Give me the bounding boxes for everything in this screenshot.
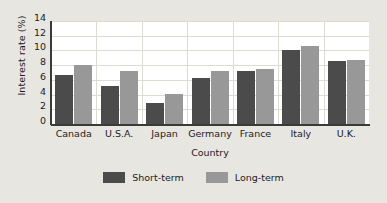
y-axis-tick-label: 8 bbox=[40, 57, 46, 66]
y-axis-tick-label: 4 bbox=[40, 86, 46, 95]
bar bbox=[55, 75, 73, 124]
legend-label: Short-term bbox=[132, 172, 184, 183]
legend-swatch-short-term bbox=[103, 172, 125, 183]
chart-legend: Short-termLong-term bbox=[0, 172, 387, 183]
gridline-vertical bbox=[278, 21, 279, 124]
x-axis-tick-label: Germany bbox=[188, 128, 232, 139]
y-axis-tick-label: 2 bbox=[40, 101, 46, 110]
bar bbox=[192, 78, 210, 124]
x-axis-tick-label: France bbox=[240, 128, 272, 139]
gridline-horizontal bbox=[51, 21, 369, 22]
x-axis-tick-label: Japan bbox=[151, 128, 178, 139]
legend-item: Long-term bbox=[206, 172, 284, 183]
gridline-vertical bbox=[187, 21, 188, 124]
bar bbox=[328, 61, 346, 124]
x-axis-title: Country bbox=[51, 147, 369, 158]
x-axis-tick-label: U.S.A. bbox=[105, 128, 133, 139]
gridline-horizontal bbox=[51, 65, 369, 66]
y-axis-tick-label: 12 bbox=[34, 27, 46, 36]
gridline-vertical bbox=[96, 21, 97, 124]
bar bbox=[237, 71, 255, 124]
bar bbox=[347, 60, 365, 124]
gridline-horizontal bbox=[51, 36, 369, 37]
plot-area bbox=[51, 21, 369, 124]
bar bbox=[256, 69, 274, 124]
x-axis-tick-label: Canada bbox=[56, 128, 92, 139]
y-axis-tick-label: 10 bbox=[34, 42, 46, 51]
x-axis-line bbox=[51, 124, 370, 126]
y-axis-tick-labels: 02468101214 bbox=[18, 17, 46, 127]
gridline-vertical bbox=[324, 21, 325, 124]
legend-item: Short-term bbox=[103, 172, 184, 183]
bar bbox=[146, 103, 164, 124]
x-axis-tick-label: Italy bbox=[291, 128, 312, 139]
y-axis-tick-label: 0 bbox=[40, 116, 46, 125]
bar bbox=[120, 71, 138, 124]
x-axis-tick-label: U.K. bbox=[337, 128, 356, 139]
bar bbox=[74, 65, 92, 124]
y-axis-tick-label: 14 bbox=[34, 13, 46, 22]
y-axis-line bbox=[50, 21, 52, 125]
legend-swatch-long-term bbox=[206, 172, 228, 183]
bar bbox=[165, 94, 183, 124]
legend-label: Long-term bbox=[235, 172, 284, 183]
gridline-vertical bbox=[142, 21, 143, 124]
bar bbox=[211, 71, 229, 124]
y-axis-tick-label: 6 bbox=[40, 71, 46, 80]
gridline-horizontal bbox=[51, 50, 369, 51]
bar bbox=[101, 86, 119, 124]
bar bbox=[282, 50, 300, 124]
gridline-vertical bbox=[233, 21, 234, 124]
x-axis-tick-labels: CanadaU.S.A.JapanGermanyFranceItalyU.K. bbox=[51, 128, 369, 142]
bar-chart-figure: Interest rate (%) 02468101214 CanadaU.S.… bbox=[0, 0, 387, 203]
bar bbox=[301, 46, 319, 124]
